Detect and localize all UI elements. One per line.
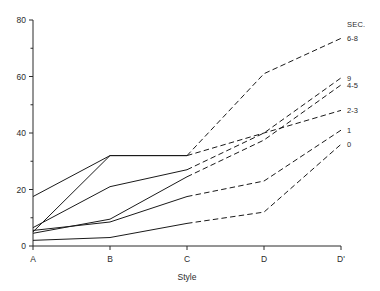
chart-canvas: 020406080ABCDD'Style6-894-52-310SEC. <box>0 0 380 291</box>
series-label-4-5: 4-5 <box>347 81 358 90</box>
series-line-dashed-6-8 <box>187 38 341 155</box>
y-tick-label: 60 <box>17 72 27 82</box>
line-chart: 020406080ABCDD'Style6-894-52-310SEC. <box>0 0 380 291</box>
series-label-0: 0 <box>347 140 351 149</box>
x-axis-title: Style <box>178 272 197 282</box>
series-label-6-8: 6-8 <box>347 34 358 43</box>
series-line-dashed-9 <box>187 78 341 170</box>
series-line-solid-2-3 <box>33 156 187 197</box>
series-line-dashed-1 <box>187 130 341 196</box>
y-tick-label: 20 <box>17 185 27 195</box>
x-tick-label: D <box>261 254 267 264</box>
series-line-solid-1 <box>33 197 187 231</box>
series-label-1: 1 <box>347 126 351 135</box>
series-line-solid-0 <box>33 223 187 240</box>
series-line-dashed-0 <box>187 144 341 223</box>
x-tick-label: D' <box>337 254 345 264</box>
x-tick-label: C <box>184 254 190 264</box>
series-line-solid-4-5 <box>33 177 187 234</box>
y-tick-label: 40 <box>17 128 27 138</box>
series-line-solid-6-8 <box>33 156 187 232</box>
y-tick-label: 0 <box>21 241 26 251</box>
legend-header: SEC. <box>347 20 365 29</box>
series-line-dashed-2-3 <box>187 110 341 155</box>
series-line-dashed-4-5 <box>187 85 341 177</box>
x-tick-label: A <box>30 254 36 264</box>
x-tick-label: B <box>107 254 113 264</box>
series-label-2-3: 2-3 <box>347 106 358 115</box>
y-tick-label: 80 <box>17 15 27 25</box>
